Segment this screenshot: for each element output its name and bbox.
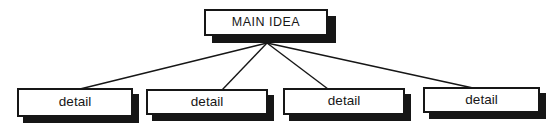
main-idea-box: MAIN IDEA	[204, 9, 328, 36]
detail-label-2: detail	[191, 95, 223, 110]
detail-label-4: detail	[465, 93, 497, 108]
detail-box-4: detail	[423, 87, 540, 113]
main-idea-label: MAIN IDEA	[232, 16, 300, 30]
connector-line	[80, 43, 267, 89]
detail-label-3: detail	[328, 94, 360, 109]
detail-box-2: detail	[146, 89, 268, 115]
detail-label-1: detail	[59, 95, 91, 110]
detail-box-1: detail	[17, 88, 133, 117]
detail-box-3: detail	[283, 88, 405, 115]
connector-line	[222, 43, 267, 90]
idea-map-diagram: MAIN IDEA detail detail detail detail	[0, 0, 559, 129]
